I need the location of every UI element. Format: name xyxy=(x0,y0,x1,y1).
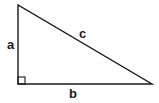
side-label-a: a xyxy=(7,37,15,52)
side-label-c: c xyxy=(79,26,86,41)
triangle-outline xyxy=(18,5,152,84)
side-label-b: b xyxy=(69,86,77,101)
right-triangle-diagram: a b c xyxy=(0,0,159,103)
right-angle-marker xyxy=(18,77,25,84)
